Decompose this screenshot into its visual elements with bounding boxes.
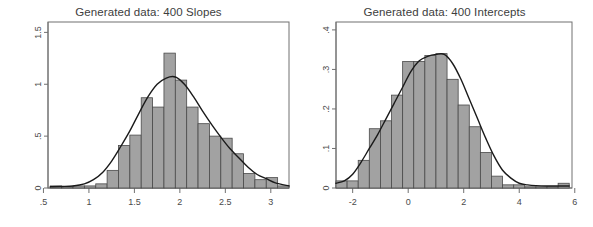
x-tick-label: 2 [177,197,182,207]
x-tick-label: 1 [86,197,91,207]
histogram-bar [536,187,547,188]
y-tick-label: 1 [33,82,43,87]
histogram-bar [380,121,391,188]
chart-panel-slopes: Generated data: 400 Slopes 0.511.5.511.5… [0,0,297,227]
histogram-bars [336,54,569,188]
x-tick-label: 6 [572,197,577,207]
histogram-bar [244,173,255,188]
histogram-bar [255,180,266,188]
x-tick-label: 4 [517,197,522,207]
histogram-bars [50,53,289,188]
histogram-bar [525,187,536,188]
histogram-bar [491,176,502,188]
histogram-bar [458,105,469,188]
histogram-bar [187,107,198,188]
histogram-bar [84,186,95,188]
chart-svg-slopes: 0.511.5.511.522.53 [0,0,297,227]
y-tick-label: .2 [321,105,331,113]
histogram-bar [403,62,414,188]
histogram-bar [198,124,209,188]
histogram-bar [347,181,358,188]
x-tick-label: 2.5 [219,197,232,207]
x-tick-label: 0 [406,197,411,207]
x-tick-label: -2 [349,197,357,207]
x-tick-label: 1.5 [128,197,141,207]
x-tick-label: 2 [461,197,466,207]
y-tick-label: .3 [321,66,331,74]
histogram-bar [369,129,380,188]
histogram-bar [107,170,118,188]
histogram-bar [164,53,175,188]
histogram-bar [425,56,436,188]
chart-title-intercepts: Generated data: 400 Intercepts [296,6,593,18]
histogram-bar [447,79,458,188]
histogram-bar [209,136,220,188]
histogram-bar [547,187,558,188]
y-tick-label: .1 [321,145,331,153]
histogram-bar [514,185,525,188]
y-tick-label: 0 [33,185,43,190]
histogram-bar [118,145,129,188]
figure-container: Generated data: 400 Slopes 0.511.5.511.5… [0,0,593,227]
histogram-bar [130,135,141,188]
chart-panel-intercepts: Generated data: 400 Intercepts 0.1.2.3.4… [296,0,593,227]
histogram-bar [141,98,152,188]
histogram-bar [503,185,514,188]
histogram-bar [469,127,480,188]
histogram-bar [221,138,232,188]
y-tick-label: 1.5 [33,26,43,39]
histogram-bar [175,80,186,188]
x-tick-label: .5 [40,197,48,207]
histogram-bar [96,184,107,188]
x-tick-label: 3 [268,197,273,207]
y-tick-label: .4 [321,26,331,34]
histogram-bar [480,152,491,188]
y-tick-label: .5 [33,132,43,140]
chart-title-slopes: Generated data: 400 Slopes [0,6,297,18]
y-tick-label: 0 [321,185,331,190]
histogram-bar [153,107,164,188]
chart-svg-intercepts: 0.1.2.3.4-20246 [296,0,593,227]
histogram-bar [392,95,403,188]
histogram-bar [436,54,447,188]
histogram-bar [414,62,425,188]
histogram-bar [232,154,243,188]
